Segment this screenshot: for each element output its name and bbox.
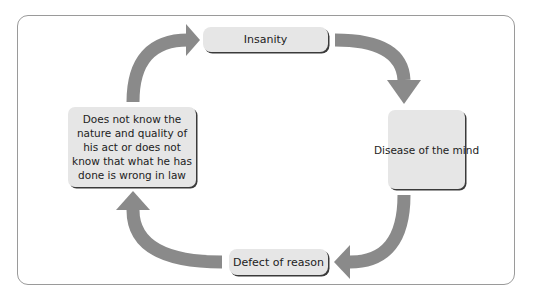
node-insanity: Insanity <box>203 27 328 52</box>
arrow-disease-to-defect <box>350 195 404 262</box>
arrowhead-down-icon <box>387 80 421 104</box>
arrowhead-left-icon <box>334 245 350 279</box>
node-defect-of-reason: Defect of reason <box>229 249 328 275</box>
arrow-insanity-to-disease <box>335 40 404 80</box>
arrowhead-up-icon <box>116 191 150 210</box>
node-does-not-know: Does not know the nature and quality of … <box>68 107 196 187</box>
node-label: Defect of reason <box>233 256 324 269</box>
arrow-defect-to-knowledge <box>133 210 222 262</box>
node-label: Disease of the mind <box>374 144 479 156</box>
node-label: Does not know the nature and quality of … <box>72 112 192 182</box>
node-label: Insanity <box>244 33 288 46</box>
arrowhead-right-icon <box>186 24 200 56</box>
node-disease-of-the-mind: Disease of the mind <box>388 110 465 189</box>
arrow-knowledge-to-insanity <box>133 40 188 102</box>
